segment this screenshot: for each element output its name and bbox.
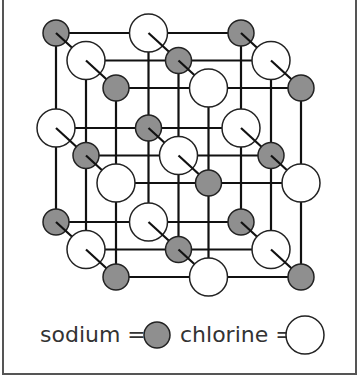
sodium-atom-icon bbox=[288, 264, 314, 290]
sodium-atom-icon bbox=[196, 170, 222, 196]
chlorine-atom-icon bbox=[190, 258, 228, 296]
nacl-lattice-diagram bbox=[0, 0, 363, 388]
sodium-atom-icon bbox=[103, 75, 129, 101]
sodium-atom-icon bbox=[288, 75, 314, 101]
sodium-atom-icon bbox=[103, 264, 129, 290]
chlorine-atom-icon bbox=[97, 164, 135, 202]
chlorine-atom-icon bbox=[190, 69, 228, 107]
chlorine-atom-icon bbox=[282, 164, 320, 202]
